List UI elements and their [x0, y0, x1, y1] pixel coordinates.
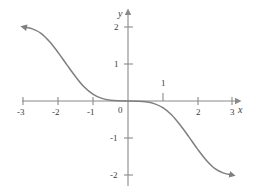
x-tick-label-pos3: 3	[230, 108, 235, 117]
y-tick-label-pos1: 1	[114, 60, 119, 69]
x-tick-label-neg1: -1	[87, 108, 95, 117]
y-tick-label-neg2: -2	[110, 171, 118, 180]
y-tick-label-neg1: -1	[110, 134, 118, 143]
x-tick-label-neg2: -2	[52, 108, 60, 117]
origin-label: 0	[118, 106, 123, 115]
y-tick-label-pos2: 2	[114, 23, 119, 32]
plot-canvas	[0, 0, 257, 191]
x-axis-label: x	[238, 105, 242, 115]
x-tick-label-neg3: -3	[17, 108, 25, 117]
graph-figure: -3 -2 -1 1 2 3 2 1 -1 -2 0 x y	[0, 0, 257, 191]
x-tick-label-pos2: 2	[196, 108, 201, 117]
y-axis-label: y	[118, 9, 122, 19]
x-tick-label-pos1: 1	[161, 79, 166, 88]
